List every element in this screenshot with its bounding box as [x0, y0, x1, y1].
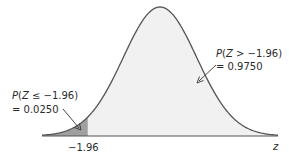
x-axis-label: z [272, 141, 279, 152]
normal-distribution-chart: P(Z > −1.96) = 0.9750 P(Z ≤ −1.96) = 0.0… [0, 0, 289, 160]
left-tail-region [42, 117, 88, 136]
left-arrow-shaft [63, 109, 79, 128]
left-region-value: = 0.0250 [12, 104, 59, 115]
right-region-value: = 0.9750 [216, 61, 263, 72]
critical-value-tick-label: −1.96 [68, 142, 99, 153]
left-region-expression: P(Z ≤ −1.96) [12, 90, 78, 101]
right-region-expression: P(Z > −1.96) [216, 48, 282, 59]
